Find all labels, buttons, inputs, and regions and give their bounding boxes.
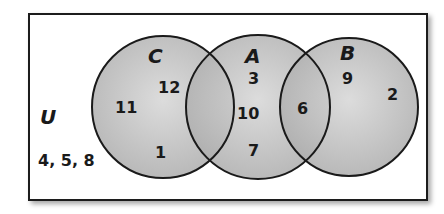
region-b-only-element: 2	[387, 85, 398, 104]
region-a-only-element: 7	[248, 141, 259, 160]
region-c-only-element: 11	[115, 98, 137, 117]
universe-label: U	[40, 105, 56, 129]
set-a-label: A	[243, 44, 260, 68]
region-c-only-element: 12	[158, 78, 180, 97]
region-a-and-b-element: 6	[297, 99, 308, 118]
venn-diagram: C A B U 4, 5, 8 11 12 1 3 10 7 6 9 2	[0, 0, 444, 214]
set-c-label: C	[148, 44, 163, 68]
region-a-only-element: 3	[248, 69, 259, 88]
universe-outside-elements: 4, 5, 8	[38, 151, 95, 170]
region-a-only-element: 10	[237, 104, 259, 123]
set-b-label: B	[340, 41, 355, 65]
region-c-only-element: 1	[155, 143, 166, 162]
region-b-only-element: 9	[342, 69, 353, 88]
